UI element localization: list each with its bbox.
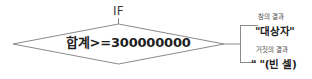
true-branch-caption: 참의 결과 xyxy=(258,14,284,21)
if-keyword-label: IF xyxy=(113,5,124,17)
diagram-canvas: IF 합계>=300000000 참의 결과 "대상자" 거짓의 결과 " "(… xyxy=(0,0,312,79)
false-branch-caption: 거짓의 결과 xyxy=(256,47,287,54)
decision-condition-text: 합계>=300000000 xyxy=(66,36,191,49)
false-branch-value: " "(빈 셀) xyxy=(251,59,296,70)
true-branch-value: "대상자" xyxy=(255,26,294,37)
